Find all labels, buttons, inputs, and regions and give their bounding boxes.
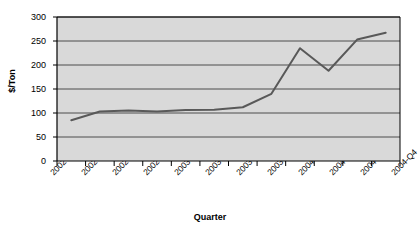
plot-area [0,0,413,233]
price-per-ton-line-chart: $/Ton 300 250 200 150 100 50 0 2002-Q1 2… [0,0,413,233]
